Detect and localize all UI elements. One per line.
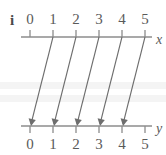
- bottom-tick-label-3: 3: [91, 136, 107, 152]
- top-tick-label-5: 5: [137, 11, 153, 27]
- top-tick-label-3: 3: [91, 11, 107, 27]
- bottom-tick-label-1: 1: [45, 136, 61, 152]
- top-tick-label-2: 2: [68, 11, 84, 27]
- top-tick-label-1: 1: [45, 11, 61, 27]
- top-tick-label-4: 4: [114, 11, 130, 27]
- mapping-arrow-3-to-2: [75, 37, 99, 126]
- figure-index-label: i: [10, 12, 14, 28]
- bottom-tick-label-4: 4: [114, 136, 130, 152]
- mapping-arrow-4-to-3: [98, 37, 122, 126]
- mapping-arrow-5-to-4: [121, 37, 145, 126]
- bottom-axis-name-y: y: [156, 122, 162, 136]
- top-axis-ticks: [30, 30, 145, 37]
- mapping-arrow-2-to-1: [52, 37, 76, 126]
- bottom-axis-ticks: [30, 126, 145, 133]
- top-tick-label-0: 0: [22, 11, 38, 27]
- mapping-arrow-1-to-0: [29, 37, 53, 126]
- mapping-diagram-figure: i 0 1 2 3 4 5 x 0 1 2 3 4 5 y: [0, 0, 166, 155]
- top-axis-name-x: x: [156, 33, 162, 47]
- bottom-tick-label-5: 5: [137, 136, 153, 152]
- bottom-tick-label-0: 0: [22, 136, 38, 152]
- bottom-tick-label-2: 2: [68, 136, 84, 152]
- mapping-arrows: [29, 37, 145, 126]
